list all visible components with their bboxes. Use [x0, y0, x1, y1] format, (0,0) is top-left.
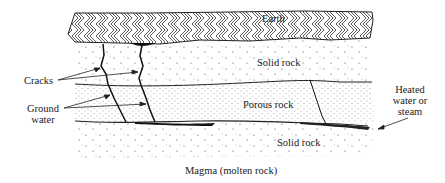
- label-ground-water: Ground water: [24, 103, 62, 125]
- layer-earth: [68, 11, 373, 44]
- label-porous-rock: Porous rock: [243, 99, 293, 110]
- layer-solid-rock-upper: [75, 39, 372, 86]
- label-heated-water: Heated water or steam: [385, 84, 435, 117]
- geothermal-diagram: Earth Solid rock Porous rock Solid rock …: [0, 0, 445, 183]
- label-magma: Magma (molten rock): [185, 165, 277, 176]
- layer-porous-rock: [75, 80, 374, 123]
- diagram-artwork: [0, 0, 445, 183]
- layer-solid-rock-lower: [75, 121, 374, 158]
- label-earth: Earth: [262, 13, 285, 24]
- label-solid-rock-lower: Solid rock: [277, 137, 320, 148]
- label-solid-rock-upper: Solid rock: [257, 57, 300, 68]
- label-cracks: Cracks: [24, 75, 53, 86]
